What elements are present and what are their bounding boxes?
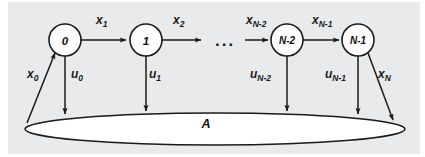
node-n-minus-1[interactable]: N-1 [342, 24, 374, 56]
diagram-canvas: 0 1 N-2 N-1 ... x1 [0, 0, 425, 157]
label-u-n-minus-1-sub: N-1 [332, 73, 346, 83]
label-x-n-minus-2-sub: N-2 [253, 19, 267, 29]
label-u0-sub: 0 [78, 73, 83, 83]
set-a-label: A [200, 117, 210, 131]
node-1-label: 1 [143, 35, 149, 47]
label-u-n-minus-2-sub: N-2 [257, 73, 271, 83]
state-transition-diagram: 0 1 N-2 N-1 ... x1 [0, 0, 425, 157]
node-n-minus-1-label: N-1 [350, 35, 367, 46]
label-u1-sub: 1 [156, 73, 161, 83]
node-1[interactable]: 1 [130, 24, 162, 56]
label-x1-sub: 1 [103, 19, 108, 29]
node-0-label: 0 [62, 35, 69, 47]
figure-container: 0 1 N-2 N-1 ... x1 [0, 0, 425, 157]
label-x2-sub: 2 [179, 19, 185, 29]
label-x0-sub: 0 [34, 73, 39, 83]
label-x-n-minus-1-sub: N-1 [319, 19, 333, 29]
node-0[interactable]: 0 [49, 24, 81, 56]
ellipsis-dots: ... [215, 31, 235, 50]
set-a-ellipse [25, 113, 405, 145]
label-xN-sub: N [385, 73, 392, 83]
node-n-minus-2[interactable]: N-2 [271, 24, 303, 56]
node-n-minus-2-label: N-2 [279, 35, 296, 46]
